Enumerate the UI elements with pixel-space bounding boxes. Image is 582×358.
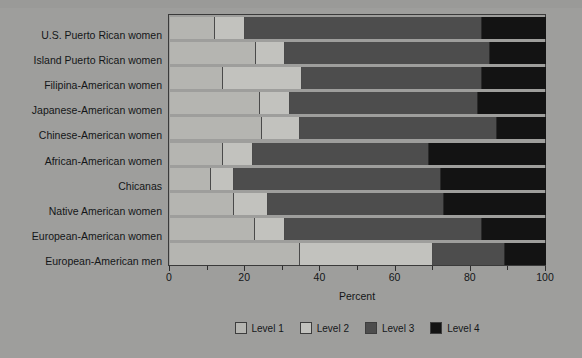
x-tick-label: 20 bbox=[238, 271, 250, 283]
bar-segment-lvl1 bbox=[170, 193, 234, 215]
plot-wrap bbox=[168, 14, 546, 266]
bar-row bbox=[169, 143, 545, 165]
y-axis-label: European-American women bbox=[0, 225, 162, 247]
x-tick-minor bbox=[357, 266, 358, 270]
x-axis: 020406080100 bbox=[168, 266, 546, 288]
legend-item-3[interactable]: Level 3 bbox=[365, 322, 414, 334]
bar-segment-lvl2 bbox=[211, 168, 234, 190]
bar-segment-lvl2 bbox=[215, 17, 245, 39]
bar-segment-lvl4 bbox=[482, 218, 546, 240]
bar-segment-lvl2 bbox=[223, 67, 302, 89]
bar-row bbox=[169, 67, 545, 89]
bar-segment-lvl2 bbox=[300, 243, 433, 265]
bar-segment-lvl1 bbox=[170, 168, 211, 190]
bar-segment-lvl4 bbox=[444, 193, 546, 215]
x-tick-label: 40 bbox=[314, 271, 326, 283]
legend-swatch-icon bbox=[235, 322, 247, 334]
bar-row bbox=[169, 243, 545, 265]
legend-label: Level 4 bbox=[447, 323, 479, 334]
legend-swatch-icon bbox=[300, 322, 312, 334]
bar-segment-lvl3 bbox=[245, 17, 482, 39]
bar-segment-lvl4 bbox=[497, 117, 546, 139]
x-tick-minor bbox=[282, 266, 283, 270]
x-tick-label: 100 bbox=[536, 271, 554, 283]
figure-page: U.S. Puerto Rican womenIsland Puerto Ric… bbox=[0, 0, 582, 358]
y-axis-label: Japanese-American women bbox=[0, 99, 162, 121]
y-axis-label: Native American women bbox=[0, 200, 162, 222]
bar-segment-lvl3 bbox=[268, 193, 445, 215]
y-axis-label: U.S. Puerto Rican women bbox=[0, 24, 162, 46]
bar-segment-lvl1 bbox=[170, 42, 256, 64]
bar-row bbox=[169, 168, 545, 190]
bar-segment-lvl3 bbox=[285, 218, 482, 240]
bar-segment-lvl4 bbox=[478, 92, 546, 114]
bar-row bbox=[169, 117, 545, 139]
y-axis-label: Chicanas bbox=[0, 175, 162, 197]
bar-row bbox=[169, 17, 545, 39]
legend-item-1[interactable]: Level 1 bbox=[235, 322, 284, 334]
legend-item-4[interactable]: Level 4 bbox=[430, 322, 479, 334]
bar-segment-lvl1 bbox=[170, 92, 260, 114]
y-axis-label: European-American men bbox=[0, 250, 162, 272]
y-axis-label: African-American women bbox=[0, 150, 162, 172]
legend-label: Level 2 bbox=[317, 323, 349, 334]
bar-row bbox=[169, 218, 545, 240]
bar-segment-lvl2 bbox=[234, 193, 268, 215]
plot-area bbox=[168, 14, 546, 266]
bar-segment-lvl3 bbox=[234, 168, 441, 190]
bar-segment-lvl1 bbox=[170, 117, 262, 139]
bar-segment-lvl2 bbox=[223, 143, 253, 165]
category-axis-labels: U.S. Puerto Rican womenIsland Puerto Ric… bbox=[0, 22, 168, 274]
bar-segment-lvl3 bbox=[302, 67, 482, 89]
bar-segment-lvl2 bbox=[260, 92, 290, 114]
bar-segment-lvl3 bbox=[253, 143, 430, 165]
bar-segment-lvl3 bbox=[433, 243, 504, 265]
legend-swatch-icon bbox=[365, 322, 377, 334]
bar-segment-lvl1 bbox=[170, 17, 215, 39]
bar-segment-lvl3 bbox=[290, 92, 478, 114]
bar-segment-lvl2 bbox=[255, 218, 285, 240]
bar-segment-lvl4 bbox=[490, 42, 546, 64]
bar-segment-lvl1 bbox=[170, 143, 223, 165]
x-tick-label: 0 bbox=[166, 271, 172, 283]
caption-strip bbox=[0, 0, 582, 8]
bar-segment-lvl4 bbox=[505, 243, 546, 265]
bar-segment-lvl2 bbox=[262, 117, 300, 139]
bar-row bbox=[169, 42, 545, 64]
bar-segment-lvl3 bbox=[300, 117, 497, 139]
bar-row bbox=[169, 92, 545, 114]
legend-label: Level 3 bbox=[382, 323, 414, 334]
x-tick-label: 80 bbox=[464, 271, 476, 283]
bar-segment-lvl4 bbox=[482, 17, 546, 39]
x-tick-minor bbox=[507, 266, 508, 270]
bar-row bbox=[169, 193, 545, 215]
x-tick-label: 60 bbox=[389, 271, 401, 283]
y-axis-label: Island Puerto Rican women bbox=[0, 49, 162, 71]
x-axis-title: Percent bbox=[168, 290, 546, 302]
bar-segment-lvl4 bbox=[482, 67, 546, 89]
y-axis-label: Chinese-American women bbox=[0, 124, 162, 146]
bar-segment-lvl4 bbox=[429, 143, 546, 165]
legend-item-2[interactable]: Level 2 bbox=[300, 322, 349, 334]
legend-label: Level 1 bbox=[252, 323, 284, 334]
x-tick-minor bbox=[207, 266, 208, 270]
stacked-bar-chart: U.S. Puerto Rican womenIsland Puerto Ric… bbox=[0, 8, 582, 350]
y-axis-label: Filipina-American women bbox=[0, 74, 162, 96]
bar-segment-lvl3 bbox=[285, 42, 490, 64]
x-tick-minor bbox=[432, 266, 433, 270]
legend-swatch-icon bbox=[430, 322, 442, 334]
chart-legend: Level 1Level 2Level 3Level 4 bbox=[168, 318, 546, 338]
bar-segment-lvl4 bbox=[441, 168, 546, 190]
bar-segment-lvl1 bbox=[170, 67, 223, 89]
bar-segment-lvl1 bbox=[170, 243, 300, 265]
bar-segment-lvl1 bbox=[170, 218, 255, 240]
bar-segment-lvl2 bbox=[256, 42, 284, 64]
